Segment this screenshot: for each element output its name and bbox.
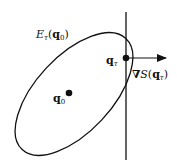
- gradient-label: ∇S(qτ): [132, 68, 168, 82]
- center-point: [66, 90, 73, 97]
- tangent-point: [123, 55, 130, 62]
- diagram-canvas: Eτ(q0) q0 qτ ∇S(qτ): [0, 0, 177, 160]
- ellipse-label: Eτ(q0): [35, 28, 69, 42]
- center-label: q0: [53, 92, 65, 106]
- ellipse-e-tau: [0, 13, 154, 160]
- tangent-point-label: qτ: [106, 54, 118, 68]
